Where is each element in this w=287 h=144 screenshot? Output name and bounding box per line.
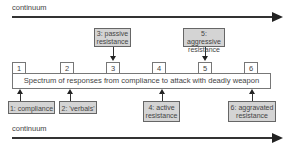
callout-compliance: 1: compliance — [8, 101, 55, 114]
arrow-to-level-4 — [162, 93, 163, 101]
bottom-continuum-line — [12, 137, 274, 139]
callout-aggressive-resistance-line1: 5: aggressive — [184, 30, 224, 46]
spectrum-box: Spectrum of responses from compliance to… — [12, 73, 271, 89]
callout-aggravated-resistance: 6: aggravated resistance — [228, 101, 276, 122]
callout-compliance-line1: 1: compliance — [9, 103, 54, 114]
arrow-down-icon — [202, 56, 208, 61]
top-continuum-label: continuum — [12, 3, 47, 12]
callout-aggravated-resistance-line1: 6: aggravated — [229, 104, 275, 112]
callout-passive-resistance: 3: passive resistance — [94, 28, 131, 47]
top-continuum-arrowhead-icon — [272, 12, 283, 22]
arrow-down-icon — [110, 56, 116, 61]
arrow-to-level-1 — [20, 93, 21, 101]
callout-active-resistance-line1: 4: active — [144, 104, 179, 112]
callout-verbals: 2: 'verbals' — [59, 101, 97, 114]
callout-aggravated-resistance-line2: resistance — [229, 112, 275, 120]
callout-aggressive-resistance-line2: resistance — [184, 46, 224, 54]
top-continuum-line — [12, 16, 274, 18]
callout-active-resistance: 4: active resistance — [143, 101, 180, 122]
callout-aggressive-resistance: 5: aggressive resistance — [183, 28, 225, 47]
bottom-continuum-label: continuum — [12, 124, 47, 133]
callout-passive-resistance-line2: resistance — [95, 38, 130, 46]
callout-active-resistance-line2: resistance — [144, 112, 179, 120]
callout-verbals-line1: 2: 'verbals' — [60, 103, 96, 114]
bottom-continuum-arrowhead-icon — [272, 133, 283, 143]
arrow-to-level-2 — [70, 93, 71, 101]
callout-passive-resistance-line1: 3: passive — [95, 30, 130, 38]
arrow-to-level-6 — [252, 93, 253, 101]
